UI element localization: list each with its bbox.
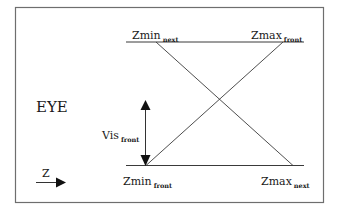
label-zmin-next: Zminnext [132, 26, 178, 42]
label-eye: EYE [36, 100, 68, 115]
label-sub: next [294, 182, 310, 190]
label-main: Zmin [132, 29, 161, 42]
label-main: Zmin [123, 175, 152, 188]
z-direction-arrow-icon [36, 178, 66, 188]
label-sub: front [154, 182, 172, 190]
vis-front-arrow-icon [141, 100, 151, 166]
label-zmax-next: Zmaxnext [261, 172, 310, 188]
label-sub: front [121, 136, 139, 144]
label-main: Zmax [251, 29, 282, 42]
label-z-axis: Z [42, 168, 50, 179]
label-zmax-front: Zmaxfront [251, 26, 302, 42]
label-main: Zmax [261, 175, 292, 188]
label-zmin-front: Zminfront [123, 172, 172, 188]
label-vis-front: Visfront [102, 126, 139, 142]
label-sub: next [163, 36, 179, 44]
label-main: Vis [102, 129, 119, 142]
diagram-canvas: Zminnext Zmaxfront EYE Visfront Zminfron… [0, 0, 337, 210]
label-sub: front [284, 36, 302, 44]
diagonal-front [146, 42, 283, 166]
diagonal-next [156, 42, 293, 166]
